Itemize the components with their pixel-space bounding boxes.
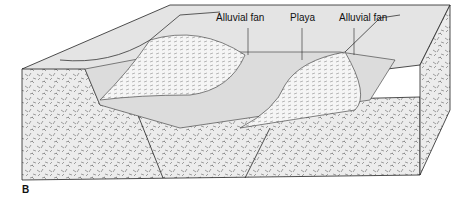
label-playa: Playa (290, 12, 315, 23)
label-left-alluvial-fan: Alluvial fan (216, 12, 264, 23)
label-right-alluvial-fan: Alluvial fan (339, 12, 387, 23)
block-diagram (0, 0, 471, 199)
panel-letter: B (22, 184, 29, 195)
